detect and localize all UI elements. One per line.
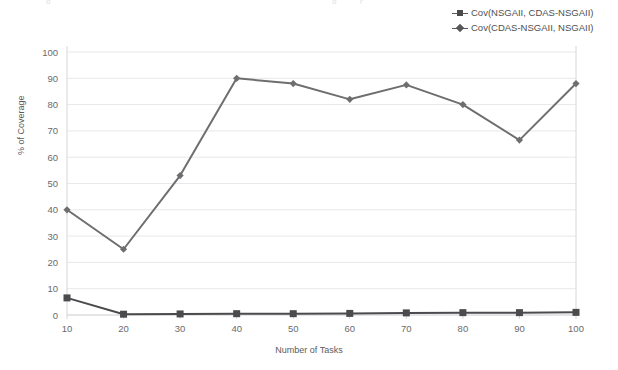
svg-text:70: 70 (401, 323, 412, 334)
y-axis-title: % of Coverage (16, 95, 26, 155)
svg-text:100: 100 (42, 47, 58, 58)
svg-text:90: 90 (47, 73, 58, 84)
svg-text:50: 50 (288, 323, 299, 334)
svg-text:90: 90 (514, 323, 525, 334)
axis-lines (67, 46, 576, 319)
series-layer (63, 75, 579, 318)
svg-text:20: 20 (118, 323, 129, 334)
svg-text:50: 50 (47, 178, 58, 189)
svg-text:80: 80 (47, 99, 58, 110)
svg-text:100: 100 (568, 323, 584, 334)
svg-text:10: 10 (62, 323, 73, 334)
svg-text:10: 10 (47, 283, 58, 294)
svg-text:70: 70 (47, 125, 58, 136)
chart-screenshot: o o r Cov(NSGAII, CDAS-NSGAII) Cov(CDAS-… (0, 0, 618, 370)
svg-text:30: 30 (47, 231, 58, 242)
svg-text:20: 20 (47, 257, 58, 268)
x-tick-labels: 102030405060708090100 (62, 323, 584, 334)
svg-text:40: 40 (47, 204, 58, 215)
svg-text:0: 0 (53, 310, 58, 321)
svg-text:40: 40 (231, 323, 242, 334)
svg-text:30: 30 (175, 323, 186, 334)
chart-svg: 0102030405060708090100 10203040506070809… (0, 0, 618, 370)
svg-text:60: 60 (47, 152, 58, 163)
plot-area: 0102030405060708090100 10203040506070809… (0, 0, 618, 370)
x-axis-title: Number of Tasks (0, 345, 618, 355)
svg-text:80: 80 (458, 323, 469, 334)
y-tick-labels: 0102030405060708090100 (42, 47, 58, 321)
svg-text:60: 60 (344, 323, 355, 334)
